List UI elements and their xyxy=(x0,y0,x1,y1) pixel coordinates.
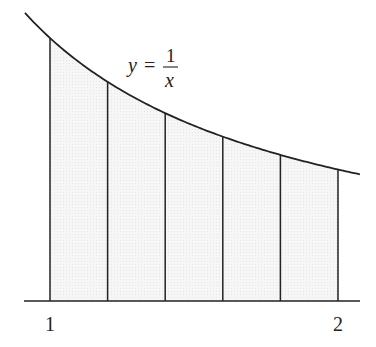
tick-label-1: 1 xyxy=(45,313,55,335)
curve-label: y = 1 x xyxy=(126,45,178,91)
label-y: y xyxy=(126,54,137,77)
riemann-plot: y = 1 x 1 2 xyxy=(0,0,376,347)
label-equals: = xyxy=(144,54,155,76)
tick-label-2: 2 xyxy=(333,313,343,335)
label-numerator: 1 xyxy=(166,45,176,66)
figure-canvas: y = 1 x 1 2 xyxy=(0,0,376,347)
label-denominator: x xyxy=(164,69,174,91)
shaded-region xyxy=(50,38,338,301)
